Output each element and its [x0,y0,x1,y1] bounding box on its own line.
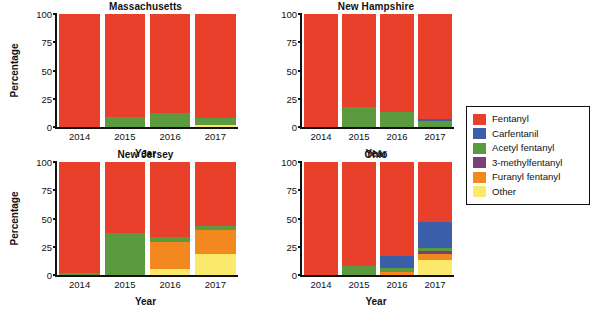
legend-swatch-icon [473,143,486,154]
bar-2017 [195,14,235,127]
bar-segment [380,272,414,275]
bar-segment [418,248,452,251]
x-tick-label: 2017 [205,131,226,142]
y-tick-mark [298,161,302,163]
y-tick-mark [53,218,57,220]
bar-segment [195,162,235,226]
bar-segment [304,14,338,127]
x-tick-label: 2016 [160,279,181,290]
bar-segment [150,242,190,269]
bar-segment [418,222,452,248]
bar-segment [195,14,235,118]
bar-segment [342,107,376,127]
y-tick-mark [298,126,302,128]
legend-item[interactable]: Carfentanil [473,127,583,142]
x-tick-label: 2014 [310,279,331,290]
bar-segment [418,260,452,275]
bar-segment [59,162,99,273]
bar-2017 [195,162,235,275]
bar-2016 [380,14,414,127]
bar-segment [380,14,414,112]
bar-segment [418,14,452,119]
figure-root: Massachusetts10075502502014201520162017Y… [0,0,598,333]
legend-item[interactable]: Furanyl fentanyl [473,170,583,185]
plot-area: 10075502502014201520162017 [300,162,454,277]
x-tick-label: 2015 [114,131,135,142]
bar-2014 [59,162,99,275]
bar-segment [342,266,376,275]
panel-ohio: Ohio10075502502014201520162017Year [250,162,464,315]
y-tick-mark [298,41,302,43]
y-tick-mark [53,98,57,100]
y-axis-label: Percentage [9,162,20,275]
legend-swatch-icon [473,172,486,183]
x-tick-label: 2015 [114,279,135,290]
bar-segment [342,162,376,266]
y-axis-label: Percentage [9,14,20,127]
bar-2015 [342,162,376,275]
y-tick-mark [298,246,302,248]
bar-segment [380,112,414,127]
y-tick-mark [298,189,302,191]
plot-area: 10075502502014201520162017 [300,14,454,129]
panel-title: Ohio [300,149,452,160]
panel-title: Massachusetts [55,1,236,12]
bar-2015 [342,14,376,127]
x-tick-label: 2017 [424,131,445,142]
legend-label: 3-methylfentanyl [492,158,562,168]
y-tick-mark [298,218,302,220]
bar-segment [150,237,190,243]
legend-item[interactable]: 3-methylfentanyl [473,156,583,171]
bar-segment [105,117,145,127]
x-tick-label: 2015 [348,279,369,290]
legend-item[interactable]: Acetyl fentanyl [473,141,583,156]
legend-item[interactable]: Other [473,185,583,200]
bar-segment [418,162,452,222]
y-tick-mark [298,98,302,100]
bar-segment [59,14,99,127]
bar-segment [150,113,190,127]
x-tick-label: 2015 [348,131,369,142]
plot-area: 10075502502014201520162017 [55,14,238,129]
bar-segment [380,256,414,268]
x-tick-label: 2014 [69,279,90,290]
bar-segment [380,162,414,256]
y-tick-mark [53,41,57,43]
panel-new-jersey: New Jersey10075502502014201520162017Year… [0,162,248,315]
bar-segment [418,119,452,121]
y-tick-mark [53,189,57,191]
y-tick-mark [53,246,57,248]
y-tick-mark [53,161,57,163]
x-tick-label: 2017 [424,279,445,290]
figure-caption-strip [6,325,266,333]
x-tick-label: 2016 [160,131,181,142]
legend-label: Furanyl fentanyl [492,172,560,182]
bar-segment [418,251,452,253]
bar-2016 [150,162,190,275]
bar-segment [59,273,99,275]
bar-2016 [380,162,414,275]
legend-item[interactable]: Fentanyl [473,112,583,127]
legend-label: Fentanyl [492,114,529,124]
bar-2017 [418,14,452,127]
bar-segment [195,118,235,125]
x-tick-label: 2017 [205,279,226,290]
legend: FentanylCarfentanilAcetyl fentanyl3-meth… [466,106,590,205]
legend-swatch-icon [473,186,486,197]
x-axis-label: Year [300,296,452,307]
bar-segment [150,162,190,237]
plot-area: 10075502502014201520162017 [55,162,238,277]
bar-2015 [105,162,145,275]
panel-new-hampshire: New Hampshire10075502502014201520162017Y… [250,14,464,167]
bar-segment [304,162,338,275]
bar-segment [150,269,190,275]
x-tick-label: 2016 [386,279,407,290]
panel-massachusetts: Massachusetts10075502502014201520162017Y… [0,14,248,167]
y-tick-mark [298,274,302,276]
bar-segment [342,14,376,107]
bar-2016 [150,14,190,127]
legend-label: Other [492,187,516,197]
y-tick-mark [298,70,302,72]
x-tick-label: 2014 [69,131,90,142]
x-tick-label: 2016 [386,131,407,142]
